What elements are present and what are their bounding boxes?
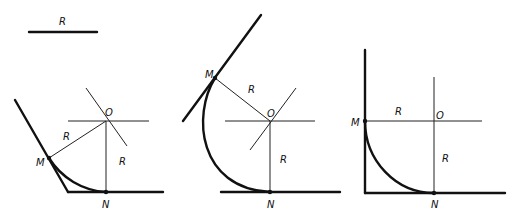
label-r2: R (442, 153, 449, 164)
point-n (268, 190, 272, 194)
point-m (363, 119, 367, 123)
label-o: O (436, 110, 444, 121)
point-n (432, 191, 436, 195)
label-r1: R (395, 106, 402, 117)
label-o: O (105, 107, 113, 118)
point-n (104, 190, 108, 194)
label-n: N (431, 199, 439, 210)
radius-line-om (215, 78, 270, 121)
reference-radius: R (29, 16, 97, 32)
label-r2: R (280, 154, 287, 165)
slanted-edge (15, 100, 68, 192)
label-n: N (102, 199, 110, 210)
panel-right-angle: M R O R N (351, 50, 505, 210)
label-r2: R (119, 156, 126, 167)
reference-radius-label: R (59, 16, 66, 27)
panel-obtuse-angle: M R O R N (183, 15, 340, 210)
label-m: M (205, 69, 214, 80)
parallel-line-slanted (250, 88, 296, 150)
radius-line-om (49, 121, 106, 158)
label-n: N (267, 199, 275, 210)
label-r1: R (63, 131, 70, 142)
label-r1: R (248, 84, 255, 95)
panel-acute-angle: O R R M N (15, 88, 163, 210)
point-m (47, 156, 51, 160)
label-m: M (351, 117, 360, 128)
label-o: O (267, 108, 275, 119)
label-m: M (36, 157, 45, 168)
fillet-arc (365, 121, 434, 193)
diagram-canvas: R O R R M N M R O R N (0, 0, 515, 220)
